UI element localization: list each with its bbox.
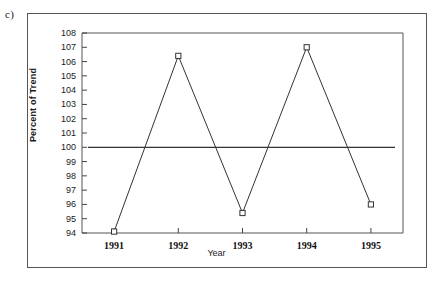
y-tick-label: 96: [50, 199, 76, 209]
y-tick-label: 102: [50, 114, 76, 124]
x-tick-label: 1992: [154, 240, 202, 251]
y-tick-label: 98: [50, 171, 76, 181]
y-tick-label: 106: [50, 57, 76, 67]
y-tick-label: 104: [50, 85, 76, 95]
x-axis-ticks: [114, 228, 371, 233]
y-tick-label: 94: [50, 228, 76, 238]
y-tick-label: 107: [50, 42, 76, 52]
plot-axes: [82, 33, 403, 233]
y-tick-label: 95: [50, 214, 76, 224]
y-tick-label: 100: [50, 142, 76, 152]
y-tick-label: 105: [50, 71, 76, 81]
data-series-line: [114, 47, 371, 231]
figure-panel-c: c) Percent of Trend Year 949596979899100…: [0, 0, 433, 284]
x-tick-label: 1995: [347, 240, 395, 251]
y-tick-label: 99: [50, 157, 76, 167]
y-tick-label: 101: [50, 128, 76, 138]
y-tick-label: 103: [50, 99, 76, 109]
x-tick-label: 1993: [219, 240, 267, 251]
y-tick-label: 108: [50, 28, 76, 38]
y-tick-label: 97: [50, 185, 76, 195]
x-tick-label: 1994: [283, 240, 331, 251]
y-axis-ticks: [82, 33, 87, 233]
x-tick-label: 1991: [90, 240, 138, 251]
data-point-markers: [112, 45, 374, 234]
